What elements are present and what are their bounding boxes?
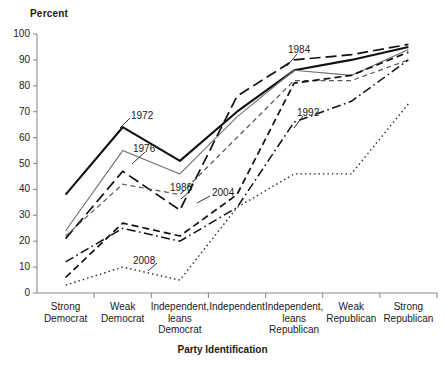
series-annotation-2004: 2004 [212,188,234,198]
plot-area [0,0,445,365]
series-line-1992 [66,60,409,262]
series-line-1976 [66,50,409,231]
series-annotation-2008: 2008 [133,256,155,266]
series-annotation-1984: 1984 [288,45,310,55]
leader-1972 [120,118,130,128]
series-annotation-1988: 1988 [170,183,192,193]
x-axis-title: Party Identification [0,344,445,355]
series-line-1988 [66,60,409,236]
series-annotation-1992: 1992 [297,108,319,118]
series-annotation-1972: 1972 [131,111,153,121]
y-tick-marks [33,34,37,293]
series-line-1972 [66,47,409,195]
series-group [66,44,409,285]
leader-2004 [197,196,210,203]
series-line-2004 [66,52,409,277]
series-line-2008 [66,104,409,285]
series-annotation-1976: 1976 [133,144,155,154]
x-tick-marks [94,293,437,298]
axes-group [33,34,437,298]
chart-container: Percent 1009080706050403020100 StrongDem… [0,0,445,365]
